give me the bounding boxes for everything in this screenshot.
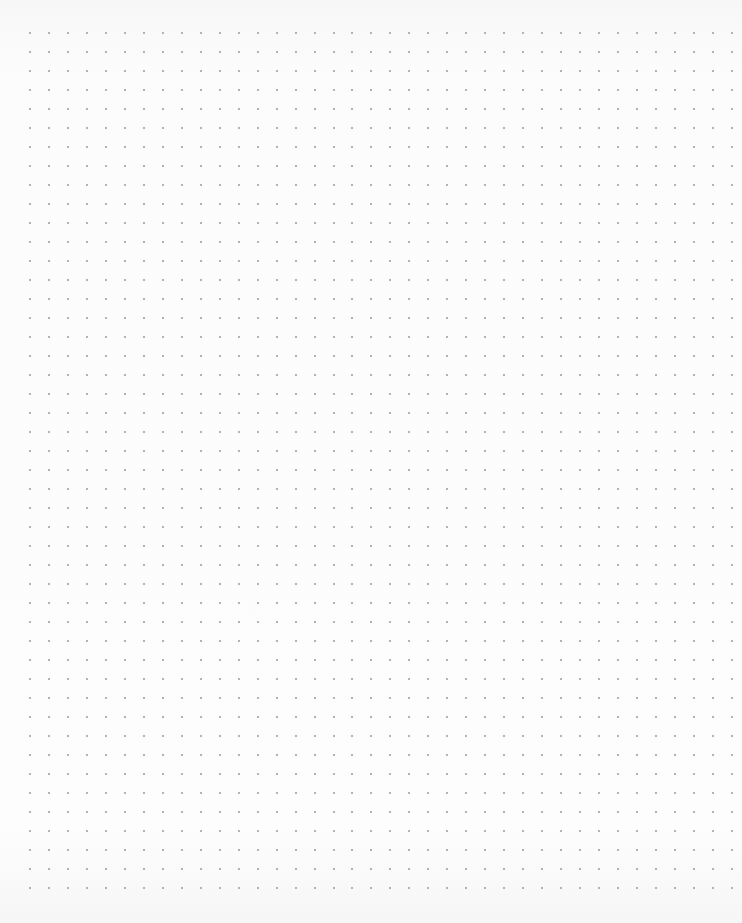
grid-dot: [314, 545, 316, 547]
grid-dot: [257, 887, 259, 889]
grid-dot: [181, 450, 183, 452]
grid-dot: [712, 32, 714, 34]
grid-dot: [314, 51, 316, 53]
grid-dot: [541, 678, 543, 680]
grid-dot: [67, 260, 69, 262]
grid-dot: [617, 89, 619, 91]
grid-dot: [427, 317, 429, 319]
grid-dot: [693, 754, 695, 756]
grid-dot: [276, 640, 278, 642]
grid-dot: [276, 811, 278, 813]
grid-dot: [560, 184, 562, 186]
grid-dot: [731, 545, 733, 547]
grid-dot: [162, 279, 164, 281]
grid-dot: [200, 735, 202, 737]
grid-dot: [200, 811, 202, 813]
grid-dot: [503, 811, 505, 813]
grid-dot: [541, 298, 543, 300]
grid-dot: [219, 279, 221, 281]
grid-dot: [181, 659, 183, 661]
grid-dot: [579, 431, 581, 433]
grid-dot: [257, 526, 259, 528]
grid-dot: [655, 298, 657, 300]
grid-dot: [446, 222, 448, 224]
grid-dot: [257, 697, 259, 699]
grid-dot: [598, 412, 600, 414]
grid-dot: [29, 564, 31, 566]
grid-dot: [276, 564, 278, 566]
grid-dot: [257, 507, 259, 509]
grid-dot: [181, 412, 183, 414]
grid-dot: [276, 735, 278, 737]
grid-dot: [598, 754, 600, 756]
grid-dot: [314, 355, 316, 357]
grid-dot: [370, 336, 372, 338]
grid-dot: [238, 469, 240, 471]
grid-dot: [579, 336, 581, 338]
grid-dot: [238, 849, 240, 851]
grid-dot: [389, 70, 391, 72]
grid-dot: [48, 355, 50, 357]
grid-dot: [579, 526, 581, 528]
grid-dot: [295, 317, 297, 319]
grid-dot: [522, 526, 524, 528]
grid-dot: [314, 830, 316, 832]
grid-dot: [351, 108, 353, 110]
grid-dot: [333, 640, 335, 642]
grid-dot: [143, 298, 145, 300]
grid-dot: [655, 222, 657, 224]
grid-dot: [370, 621, 372, 623]
grid-dot: [446, 298, 448, 300]
grid-dot: [238, 374, 240, 376]
grid-dot: [465, 146, 467, 148]
grid-dot: [124, 70, 126, 72]
grid-dot: [712, 279, 714, 281]
grid-dot: [314, 602, 316, 604]
grid-dot: [579, 887, 581, 889]
grid-dot: [295, 70, 297, 72]
grid-dot: [693, 469, 695, 471]
grid-dot: [67, 640, 69, 642]
grid-dot: [636, 716, 638, 718]
grid-dot: [257, 203, 259, 205]
grid-dot: [370, 146, 372, 148]
grid-dot: [712, 526, 714, 528]
grid-dot: [351, 849, 353, 851]
grid-dot: [465, 412, 467, 414]
grid-dot: [484, 51, 486, 53]
grid-dot: [408, 203, 410, 205]
grid-dot: [465, 184, 467, 186]
grid-dot: [86, 849, 88, 851]
grid-dot: [162, 165, 164, 167]
grid-dot: [67, 545, 69, 547]
grid-dot: [579, 108, 581, 110]
grid-dot: [484, 811, 486, 813]
grid-dot: [465, 355, 467, 357]
grid-dot: [484, 146, 486, 148]
grid-dot: [465, 450, 467, 452]
grid-dot: [484, 583, 486, 585]
grid-dot: [257, 735, 259, 737]
grid-dot: [105, 51, 107, 53]
grid-dot: [617, 431, 619, 433]
grid-dot: [143, 792, 145, 794]
grid-dot: [408, 184, 410, 186]
grid-dot: [181, 526, 183, 528]
grid-dot: [29, 621, 31, 623]
grid-dot: [484, 564, 486, 566]
grid-dot: [257, 792, 259, 794]
grid-dot: [219, 184, 221, 186]
grid-dot: [465, 469, 467, 471]
grid-dot: [200, 393, 202, 395]
grid-dot: [181, 51, 183, 53]
grid-dot: [617, 754, 619, 756]
grid-dot: [333, 108, 335, 110]
grid-dot: [484, 849, 486, 851]
grid-dot: [465, 89, 467, 91]
grid-dot: [731, 222, 733, 224]
grid-dot: [162, 716, 164, 718]
grid-dot: [219, 659, 221, 661]
grid-dot: [370, 241, 372, 243]
grid-dot: [48, 203, 50, 205]
grid-dot: [712, 488, 714, 490]
